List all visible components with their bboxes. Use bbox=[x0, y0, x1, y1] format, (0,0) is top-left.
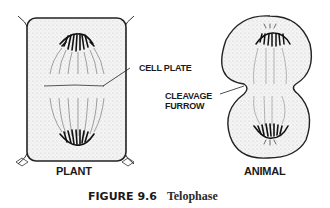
animal-label: ANIMAL bbox=[244, 166, 286, 177]
animal-cell bbox=[220, 16, 311, 158]
cleavage-furrow-leader bbox=[220, 86, 244, 94]
cell-plate-label: CELL PLATE bbox=[139, 64, 192, 73]
plant-label: PLANT bbox=[56, 166, 92, 177]
cleavage-furrow-label-line2: FURROW bbox=[165, 102, 204, 111]
figure-caption: FIGURE 9.6Telophase bbox=[88, 186, 218, 204]
figure-title: Telophase bbox=[167, 189, 218, 203]
figure-number: FIGURE 9.6 bbox=[88, 190, 157, 203]
telophase-figure: CELL PLATE CLEAVAGE FURROW PLANT ANIMAL … bbox=[0, 0, 330, 208]
plant-cell bbox=[16, 16, 134, 166]
cleavage-furrow-label-line1: CLEAVAGE bbox=[165, 92, 212, 101]
